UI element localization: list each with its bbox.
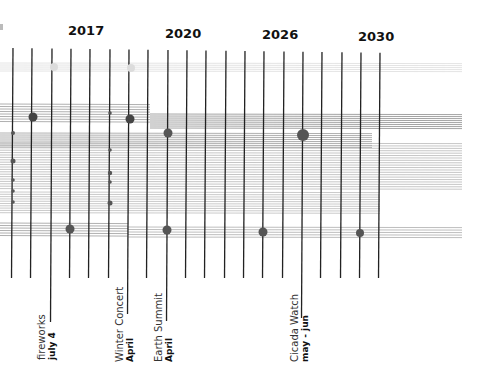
year-gridline bbox=[205, 51, 207, 279]
event-date: may - jun bbox=[300, 294, 311, 362]
data-point bbox=[66, 225, 75, 234]
band-line bbox=[0, 194, 380, 195]
year-gridline bbox=[31, 48, 33, 278]
band-line bbox=[0, 208, 380, 209]
band-line bbox=[150, 116, 462, 117]
year-label-2030: 2030 bbox=[358, 29, 394, 44]
band-line bbox=[0, 177, 462, 178]
event-label-earth-summit: Earth Summit April bbox=[153, 293, 175, 362]
band-line bbox=[150, 114, 462, 115]
year-gridline bbox=[321, 52, 323, 278]
year-gridline bbox=[225, 51, 227, 278]
band-line bbox=[128, 232, 462, 233]
band-line bbox=[0, 174, 462, 175]
year-gridline bbox=[109, 49, 111, 278]
year-gridline bbox=[147, 50, 149, 278]
event-name: fireworks bbox=[36, 314, 47, 360]
data-point bbox=[108, 171, 112, 175]
band-line bbox=[150, 120, 462, 121]
data-point bbox=[259, 228, 268, 237]
data-point bbox=[297, 129, 309, 141]
data-point bbox=[108, 148, 112, 152]
event-label-fireworks: fireworks july 4 bbox=[36, 314, 58, 360]
band-line bbox=[0, 192, 380, 193]
band-line bbox=[150, 126, 462, 127]
band-line bbox=[0, 153, 462, 154]
year-label-2020: 2020 bbox=[165, 26, 201, 41]
band-line bbox=[0, 181, 462, 182]
band-line bbox=[0, 197, 380, 198]
year-gridline bbox=[341, 52, 343, 278]
event-name: Cicada Watch bbox=[289, 294, 300, 362]
band-line bbox=[128, 235, 462, 236]
year-label-2026: 2026 bbox=[262, 27, 298, 42]
band-line bbox=[0, 148, 462, 149]
band-line bbox=[128, 237, 462, 238]
data-point bbox=[126, 115, 135, 124]
band-line bbox=[0, 114, 150, 115]
band-line bbox=[0, 179, 462, 180]
band-line bbox=[150, 128, 462, 129]
year-gridline bbox=[89, 49, 91, 278]
band-line bbox=[0, 189, 462, 190]
band-line bbox=[0, 107, 150, 108]
band-line bbox=[0, 160, 462, 161]
data-point bbox=[50, 63, 58, 71]
event-date: july 4 bbox=[47, 314, 58, 360]
event-name: Winter Concert bbox=[114, 287, 125, 362]
band-line bbox=[0, 143, 462, 144]
band-line bbox=[0, 150, 462, 151]
timeline-chart bbox=[0, 0, 491, 390]
band-line bbox=[0, 204, 380, 205]
year-gridline bbox=[186, 50, 188, 278]
band-line bbox=[0, 63, 462, 64]
data-point bbox=[163, 226, 172, 235]
year-gridline bbox=[70, 49, 72, 278]
band-line bbox=[0, 184, 462, 185]
event-line bbox=[167, 50, 169, 321]
band-line bbox=[0, 162, 462, 163]
data-point bbox=[11, 200, 15, 204]
band-line bbox=[0, 165, 462, 166]
data-point bbox=[29, 113, 38, 122]
event-label-cicada-watch: Cicada Watch may - jun bbox=[289, 294, 311, 362]
band-line bbox=[128, 230, 462, 231]
year-gridline bbox=[283, 52, 285, 279]
data-point bbox=[11, 178, 15, 182]
band-line bbox=[0, 213, 380, 214]
data-point bbox=[356, 229, 364, 237]
band-line bbox=[128, 227, 462, 228]
band-line bbox=[0, 210, 380, 211]
year-label-2017: 2017 bbox=[68, 23, 104, 38]
band-line bbox=[0, 172, 462, 173]
data-point bbox=[11, 131, 15, 135]
event-line bbox=[51, 49, 53, 323]
event-label-winter-concert: Winter Concert April bbox=[114, 287, 136, 362]
data-point bbox=[164, 129, 173, 138]
event-date: April bbox=[125, 287, 136, 362]
event-name: Earth Summit bbox=[153, 293, 164, 362]
band-line bbox=[0, 112, 150, 113]
year-gridline bbox=[360, 53, 362, 279]
band-line bbox=[0, 186, 462, 187]
band-line bbox=[150, 124, 462, 125]
band-line bbox=[0, 71, 462, 72]
year-gridline bbox=[244, 51, 246, 278]
event-date: April bbox=[164, 293, 175, 362]
band-line bbox=[0, 201, 380, 202]
data-point bbox=[108, 201, 113, 206]
band-line bbox=[0, 169, 462, 170]
band-line bbox=[150, 122, 462, 123]
band-line bbox=[0, 65, 462, 66]
band-line bbox=[0, 104, 150, 105]
band-line bbox=[150, 118, 462, 119]
data-point bbox=[108, 111, 112, 115]
band-line bbox=[0, 67, 462, 68]
data-point bbox=[11, 189, 15, 193]
event-line bbox=[128, 50, 130, 315]
band-line bbox=[0, 206, 380, 207]
event-line bbox=[302, 52, 304, 318]
year-gridline bbox=[263, 51, 265, 278]
band-line bbox=[0, 167, 462, 168]
band-line bbox=[0, 155, 462, 156]
